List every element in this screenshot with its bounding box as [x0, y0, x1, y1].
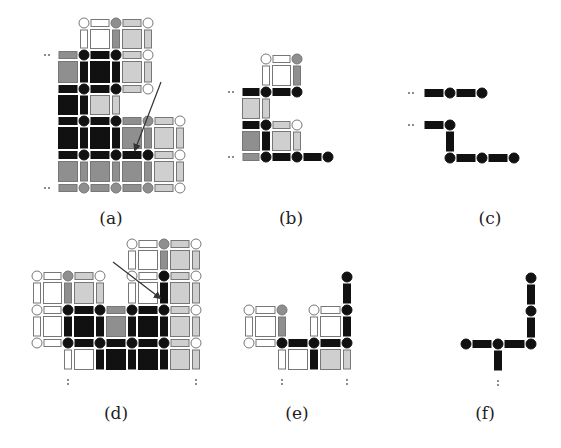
- lattice-node: [323, 152, 333, 162]
- cell-square: [44, 283, 62, 304]
- vertical-edge: [311, 350, 318, 369]
- cell-square: [59, 128, 78, 149]
- continuation-dot: [408, 92, 410, 94]
- cell-square: [123, 162, 142, 182]
- lattice-node: [244, 305, 254, 315]
- panel-label-e: (e): [285, 403, 308, 423]
- horizontal-edge: [273, 89, 290, 96]
- horizontal-edge: [59, 185, 77, 192]
- vertical-edge: [97, 317, 104, 336]
- cell-square: [91, 30, 110, 49]
- lattice-node: [32, 338, 42, 348]
- vertical-edge: [145, 62, 152, 82]
- lattice-node: [445, 88, 455, 98]
- cell-square: [107, 350, 126, 370]
- vertical-edge: [193, 317, 200, 336]
- continuation-dot: [412, 92, 414, 94]
- lattice-node: [509, 153, 519, 163]
- vertical-edge: [311, 317, 318, 336]
- continuation-dot: [346, 383, 348, 385]
- cell-square: [91, 96, 110, 115]
- vertical-edge: [129, 317, 136, 336]
- continuation-dot: [44, 187, 46, 189]
- vertical-edge: [528, 285, 535, 304]
- cell-square: [75, 283, 94, 304]
- vertical-edge: [145, 128, 152, 148]
- vertical-edge: [294, 132, 301, 150]
- horizontal-edge: [139, 307, 157, 314]
- vertical-edge: [161, 251, 168, 269]
- horizontal-edge: [425, 122, 443, 129]
- lattice-node: [111, 84, 121, 94]
- vertical-edge: [81, 128, 88, 148]
- horizontal-edge: [139, 340, 157, 347]
- lattice-node: [79, 50, 89, 60]
- cell-square: [139, 283, 158, 304]
- cell-square: [123, 62, 142, 83]
- horizontal-edge: [289, 340, 307, 347]
- panel-c: [408, 88, 519, 163]
- lattice-node: [261, 120, 271, 130]
- cell-square: [155, 128, 174, 149]
- cell-square: [273, 66, 291, 86]
- horizontal-edge: [304, 154, 321, 161]
- panel-label-d: (d): [104, 403, 128, 423]
- panel-label-f: (f): [475, 403, 495, 423]
- horizontal-edge: [321, 340, 340, 347]
- continuation-dot: [67, 379, 69, 381]
- lattice-node: [63, 338, 73, 348]
- vertical-edge: [113, 96, 120, 114]
- cell-square: [155, 162, 174, 182]
- vertical-edge: [81, 162, 88, 181]
- vertical-edge: [177, 128, 184, 148]
- vertical-edge: [193, 283, 200, 303]
- horizontal-edge: [91, 86, 109, 93]
- continuation-dot: [232, 91, 234, 93]
- horizontal-edge: [457, 90, 475, 97]
- horizontal-edge: [273, 122, 290, 129]
- horizontal-edge: [171, 273, 189, 280]
- panel-label-b: (b): [279, 208, 303, 228]
- lattice-node: [32, 271, 42, 281]
- horizontal-edge: [59, 118, 77, 125]
- horizontal-edge: [123, 118, 141, 125]
- lattice-node: [309, 305, 319, 315]
- vertical-edge: [97, 350, 104, 369]
- horizontal-edge: [91, 185, 109, 192]
- vertical-edge: [447, 132, 454, 151]
- horizontal-edge: [155, 152, 173, 159]
- continuation-dot: [228, 156, 230, 158]
- lattice-node: [526, 273, 536, 283]
- lattice-node: [79, 18, 89, 28]
- continuation-dot: [497, 384, 499, 386]
- horizontal-edge: [123, 152, 141, 159]
- cell-square: [123, 30, 142, 49]
- vertical-edge: [65, 317, 72, 336]
- vertical-edge: [113, 30, 120, 48]
- horizontal-edge: [107, 307, 125, 314]
- horizontal-edge: [91, 152, 109, 159]
- cell-square: [289, 350, 308, 370]
- lattice-node: [79, 116, 89, 126]
- horizontal-edge: [425, 90, 443, 97]
- horizontal-edge: [171, 241, 189, 248]
- vertical-edge: [263, 99, 270, 118]
- lattice-node: [111, 18, 121, 28]
- continuation-dot: [408, 124, 410, 126]
- lattice-node: [342, 305, 352, 315]
- continuation-dot: [48, 187, 50, 189]
- horizontal-edge: [59, 152, 77, 159]
- lattice-node: [309, 338, 319, 348]
- horizontal-edge: [273, 154, 290, 161]
- vertical-edge: [97, 283, 104, 303]
- horizontal-edge: [505, 341, 524, 348]
- lattice-node: [191, 338, 201, 348]
- cell-square: [171, 283, 190, 304]
- lattice-node: [111, 50, 121, 60]
- cell-square: [91, 128, 110, 149]
- vertical-edge: [161, 317, 168, 336]
- horizontal-edge: [123, 20, 141, 27]
- continuation-dot: [346, 379, 348, 381]
- cell-square: [139, 251, 158, 270]
- continuation-dot: [412, 124, 414, 126]
